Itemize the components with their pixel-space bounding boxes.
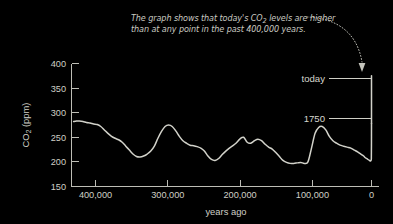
x-tick-label-0: 0	[369, 190, 374, 200]
chart-svg: The graph shows that today's CO2 levels …	[0, 0, 393, 224]
y-tick-label-150: 150	[51, 182, 66, 192]
y-axis: 400 350 300 250 200 150 CO2 (ppm)	[20, 59, 79, 192]
y-tick-label-200: 200	[51, 157, 66, 167]
y-tick-label-350: 350	[51, 84, 66, 94]
x-tick-labels: 400,000 300,000 200,000 100,000 0	[79, 190, 374, 200]
today-label: today	[302, 73, 326, 84]
x-axis-title: years ago	[205, 206, 246, 217]
annotation-today: today	[302, 73, 371, 84]
x-tick-marks	[96, 180, 372, 187]
caption-line-2: than at any point in the past 400,000 ye…	[131, 24, 306, 34]
x-tick-label-300000: 300,000	[151, 190, 184, 200]
y-tick-label-250: 250	[51, 133, 66, 143]
y-axis-title: CO2 (ppm)	[20, 103, 32, 148]
co2-chart-figure: The graph shows that today's CO2 levels …	[0, 0, 393, 224]
y-tick-label-300: 300	[51, 108, 66, 118]
dotted-curved-arrow-icon	[307, 17, 365, 72]
caption-block: The graph shows that today's CO2 levels …	[131, 13, 336, 34]
y-tick-labels: 400 350 300 250 200 150	[51, 59, 66, 192]
pointer-arrowhead	[359, 63, 366, 72]
y-tick-marks	[72, 64, 79, 187]
pointer-arc-path	[307, 17, 362, 62]
x-tick-label-400000: 400,000	[79, 190, 112, 200]
x-axis: 400,000 300,000 200,000 100,000 0 years …	[72, 180, 380, 218]
y1750-label: 1750	[304, 113, 325, 124]
x-tick-label-200000: 200,000	[223, 190, 256, 200]
co2-curve	[74, 121, 372, 164]
annotation-1750: 1750	[304, 113, 371, 124]
x-tick-label-100000: 100,000	[296, 190, 329, 200]
y-tick-label-400: 400	[51, 59, 66, 69]
data-series-group	[74, 76, 372, 164]
